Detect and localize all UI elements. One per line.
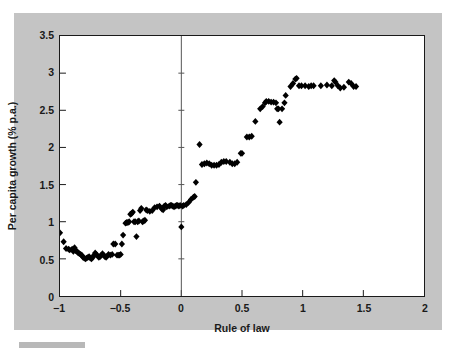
data-point [61,238,67,245]
y-tick-label: 0 [26,292,54,303]
data-point [120,232,126,239]
x-tick-label: 0.5 [235,303,250,314]
y-tick-label: 3.5 [26,30,54,41]
data-point-series [60,75,359,262]
footer-rule [19,342,85,348]
data-point [60,229,63,236]
data-point [279,105,285,112]
y-tick-label: 2 [26,142,54,153]
x-tick-label: 1 [300,303,306,314]
data-point [178,223,184,230]
figure-root: 00.511.522.533.5 −1−0.500.511.52 Rule of… [0,0,455,357]
y-tick-label: 2.5 [26,105,54,116]
data-point [283,92,289,99]
y-axis-title: Per capita growth (% p.a.) [6,102,18,230]
data-point [239,150,245,157]
data-point [318,82,324,89]
data-point [119,241,125,248]
data-point [196,141,202,148]
y-tick-label: 3 [26,67,54,78]
x-tick-label: −0.5 [110,303,131,314]
y-tick-label: 1.5 [26,179,54,190]
y-axis-title-wrapper: Per capita growth (% p.a.) [0,35,24,297]
y-tick-label: 0.5 [26,254,54,265]
data-point [281,99,287,106]
x-tick-label: 1.5 [357,303,372,314]
data-point [133,233,139,240]
x-axis-title: Rule of law [59,322,425,334]
data-point [252,118,258,125]
data-point [277,119,283,126]
x-tick-label: 0 [178,303,184,314]
data-point [324,82,330,89]
plot-area [59,35,425,297]
scatter-plot-svg [60,36,424,296]
x-tick-label: 2 [422,303,428,314]
x-tick-label: −1 [53,303,65,314]
y-tick-label: 1 [26,217,54,228]
data-point [193,179,199,186]
